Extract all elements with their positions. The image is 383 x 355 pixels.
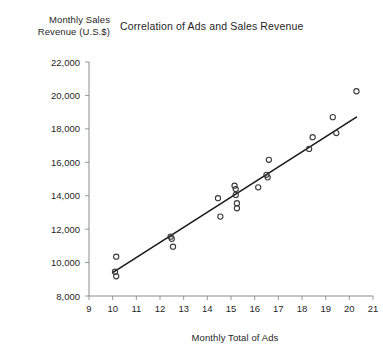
y-tick-label: 20,000 <box>51 90 80 101</box>
y-tick-label: 8,000 <box>56 291 80 302</box>
y-tick-label: 12,000 <box>51 224 80 235</box>
y-tick-label: 16,000 <box>51 157 80 168</box>
x-tick-label: 18 <box>297 303 308 314</box>
data-point <box>215 196 220 201</box>
x-tick-label: 10 <box>107 303 118 314</box>
x-tick-label: 11 <box>131 303 141 314</box>
y-tick-label: 18,000 <box>51 123 80 134</box>
x-tick-label: 14 <box>202 303 213 314</box>
data-point <box>234 201 239 206</box>
data-point <box>310 135 315 140</box>
x-tick-label: 16 <box>249 303 260 314</box>
data-point <box>354 89 359 94</box>
x-tick-label: 13 <box>178 303 189 314</box>
data-point <box>233 186 238 191</box>
y-tick-label: 22,000 <box>51 57 80 68</box>
data-point <box>170 244 175 249</box>
x-tick-label: 15 <box>226 303 237 314</box>
plot-area: 8,00010,00012,00014,00016,00018,00020,00… <box>0 0 383 355</box>
x-tick-label: 21 <box>368 303 379 314</box>
data-points <box>112 89 359 279</box>
x-tick-label: 20 <box>344 303 355 314</box>
data-point <box>334 130 339 135</box>
data-point <box>256 185 261 190</box>
x-axis-ticks: 9101112131415161718192021 <box>86 296 378 314</box>
data-point <box>330 115 335 120</box>
x-tick-label: 19 <box>320 303 331 314</box>
y-axis-ticks: 8,00010,00012,00014,00016,00018,00020,00… <box>51 57 89 302</box>
data-point <box>114 254 119 259</box>
x-tick-label: 17 <box>273 303 284 314</box>
y-tick-label: 14,000 <box>51 190 80 201</box>
data-point <box>232 183 237 188</box>
data-point <box>218 214 223 219</box>
trend-line <box>113 117 357 272</box>
data-point <box>266 157 271 162</box>
scatter-chart: Monthly Sales Revenue (U.S.$) Correlatio… <box>0 0 383 355</box>
x-tick-label: 12 <box>155 303 166 314</box>
y-tick-label: 10,000 <box>51 257 80 268</box>
x-tick-label: 9 <box>86 303 91 314</box>
data-point <box>234 206 239 211</box>
